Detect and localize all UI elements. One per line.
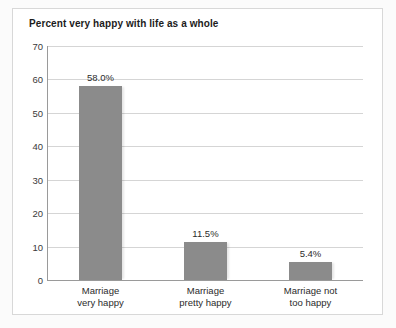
bar-group[interactable]: 11.5%Marriagepretty happy (184, 46, 227, 280)
y-axis-tick-label: 50 (32, 107, 43, 118)
chart-title: Percent very happy with life as a whole (29, 18, 219, 29)
x-axis-category-label: Marriagevery happy (77, 285, 123, 308)
bar[interactable] (79, 86, 122, 280)
y-axis-tick-label: 30 (32, 174, 43, 185)
bar-group[interactable]: 58.0%Marriagevery happy (79, 46, 122, 280)
y-axis-tick-label: 20 (32, 208, 43, 219)
y-axis-tick-label: 10 (32, 241, 43, 252)
chart-figure: Percent very happy with life as a whole … (0, 0, 396, 328)
plot-area: 706050403020100 58.0%Marriagevery happy1… (47, 46, 363, 281)
bar-value-label: 5.4% (300, 248, 322, 259)
y-axis-tick-label: 60 (32, 74, 43, 85)
bar-group[interactable]: 5.4%Marriage nottoo happy (289, 46, 332, 280)
y-axis-tick-label: 70 (32, 41, 43, 52)
x-axis-category-label: Marriagepretty happy (179, 285, 231, 308)
x-axis-category-label: Marriage nottoo happy (284, 285, 337, 308)
y-axis-tick-label: 0 (38, 275, 43, 286)
bar-series: 58.0%Marriagevery happy11.5%Marriagepret… (48, 46, 363, 280)
bar[interactable] (289, 262, 332, 280)
y-axis-tick-label: 40 (32, 141, 43, 152)
bar[interactable] (184, 242, 227, 280)
chart-panel: Percent very happy with life as a whole … (12, 8, 383, 315)
bar-value-label: 11.5% (192, 228, 218, 239)
bar-value-label: 58.0% (87, 72, 114, 83)
